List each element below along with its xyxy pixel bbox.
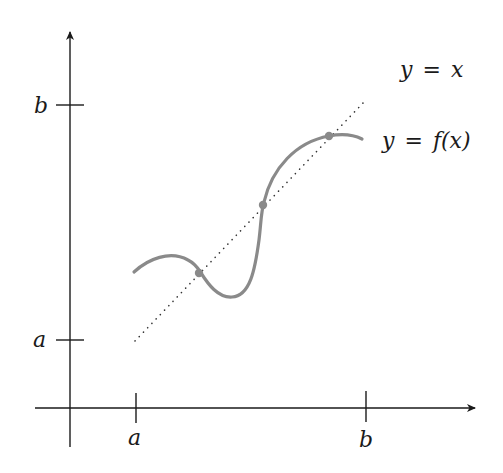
x-tick-label-a: a [128,425,141,450]
fixed-point-1 [195,269,203,277]
function-curve [134,135,362,297]
function-label: y = f(x) [381,128,471,153]
fixed-point-2 [259,201,267,209]
y-tick-label-a: a [33,327,46,352]
x-tick-label-b: b [359,427,373,452]
fixed-point-3 [325,132,333,140]
y-tick-label-b: b [34,93,48,118]
identity-label: y = x [399,57,464,82]
fixed-point-diagram: b a a b y = x y = f(x) [0,0,503,473]
